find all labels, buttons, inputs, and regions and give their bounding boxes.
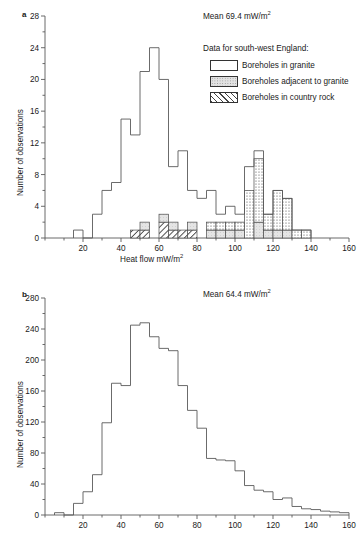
svg-text:80: 80: [192, 244, 202, 253]
svg-text:0: 0: [34, 511, 39, 520]
svg-text:40: 40: [30, 480, 40, 489]
panel-a-y-axis-title: Number of observations: [16, 109, 25, 196]
panel-a-legend: Boreholes in granite Boreholes adjacent …: [210, 58, 349, 106]
legend-swatch-adjacent-icon: [210, 76, 238, 87]
legend-label-granite: Boreholes in granite: [242, 60, 315, 71]
svg-text:24: 24: [30, 44, 40, 53]
panel-a: a Mean 69.4 mW/m2 Data for south-west En…: [0, 0, 361, 272]
svg-text:80: 80: [30, 449, 40, 458]
svg-text:140: 140: [304, 521, 318, 530]
svg-text:0: 0: [34, 234, 39, 243]
legend-swatch-granite-icon: [210, 60, 238, 71]
legend-label-adjacent: Boreholes adjacent to granite: [242, 76, 349, 87]
svg-text:12: 12: [30, 139, 40, 148]
svg-text:16: 16: [30, 107, 40, 116]
svg-text:160: 160: [342, 521, 356, 530]
svg-text:28: 28: [30, 12, 40, 21]
svg-text:8: 8: [34, 171, 39, 180]
panel-a-x-axis-title: Heat flow mW/m2: [120, 255, 183, 264]
panel-b: b Mean 64.4 mW/m2 Number of observations…: [0, 272, 361, 540]
svg-text:240: 240: [25, 325, 39, 334]
svg-text:40: 40: [116, 244, 126, 253]
svg-text:120: 120: [266, 521, 280, 530]
panel-a-letter: a: [22, 10, 26, 19]
panel-a-mean-label: Mean 69.4 mW/m2: [203, 12, 271, 21]
legend-swatch-country-icon: [210, 92, 238, 103]
legend-item-granite: Boreholes in granite: [210, 58, 349, 73]
svg-text:60: 60: [154, 244, 164, 253]
legend-item-adjacent: Boreholes adjacent to granite: [210, 74, 349, 89]
legend-item-country: Boreholes in country rock: [210, 90, 349, 105]
svg-text:100: 100: [228, 521, 242, 530]
svg-text:20: 20: [78, 521, 88, 530]
svg-text:20: 20: [78, 244, 88, 253]
svg-text:120: 120: [25, 418, 39, 427]
panel-b-plot: 0408012016020024028020406080100120140160: [0, 272, 361, 540]
panel-b-mean-label: Mean 64.4 mW/m2: [203, 290, 271, 299]
svg-text:120: 120: [266, 244, 280, 253]
svg-text:280: 280: [25, 294, 39, 303]
svg-text:80: 80: [192, 521, 202, 530]
panel-a-plot: 048121620242820406080100120140160: [0, 0, 361, 272]
svg-text:160: 160: [25, 387, 39, 396]
legend-label-country: Boreholes in country rock: [242, 92, 334, 103]
panel-b-y-axis-title: Number of observations: [16, 381, 25, 468]
svg-text:20: 20: [30, 75, 40, 84]
svg-text:4: 4: [34, 202, 39, 211]
svg-text:200: 200: [25, 356, 39, 365]
svg-text:40: 40: [116, 521, 126, 530]
svg-text:140: 140: [304, 244, 318, 253]
panel-a-legend-title: Data for south-west England:: [203, 44, 309, 53]
svg-text:60: 60: [154, 521, 164, 530]
svg-text:160: 160: [342, 244, 356, 253]
svg-text:100: 100: [228, 244, 242, 253]
panel-b-letter: b: [22, 290, 27, 299]
